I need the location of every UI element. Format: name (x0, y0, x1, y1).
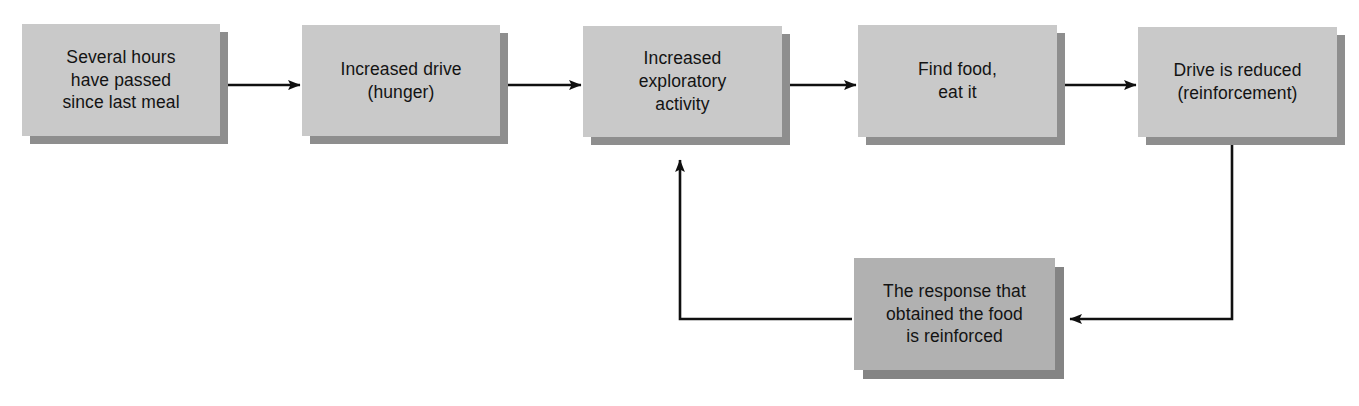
node-find-food[interactable]: Find food, eat it (858, 25, 1057, 137)
caption-bleed (18, 384, 348, 402)
arrow-response-to-exploratory (680, 160, 852, 319)
node-label: Drive is reduced (reinforcement) (1167, 59, 1307, 105)
node-drive-reduced[interactable]: Drive is reduced (reinforcement) (1138, 27, 1337, 137)
node-label: Several hours have passed since last mea… (56, 46, 185, 114)
node-label: Find food, eat it (912, 58, 1003, 104)
flowchart-diagram: Several hours have passed since last mea… (0, 0, 1359, 406)
node-label: Increased exploratory activity (633, 47, 733, 115)
arrow-reduced-to-response (1070, 140, 1232, 319)
node-exploratory-activity[interactable]: Increased exploratory activity (583, 26, 782, 137)
node-response-reinforced[interactable]: The response that obtained the food is r… (854, 258, 1055, 370)
node-label: Increased drive (hunger) (334, 58, 467, 104)
node-label: The response that obtained the food is r… (877, 280, 1032, 348)
node-several-hours[interactable]: Several hours have passed since last mea… (22, 24, 220, 136)
node-increased-drive[interactable]: Increased drive (hunger) (302, 25, 500, 136)
